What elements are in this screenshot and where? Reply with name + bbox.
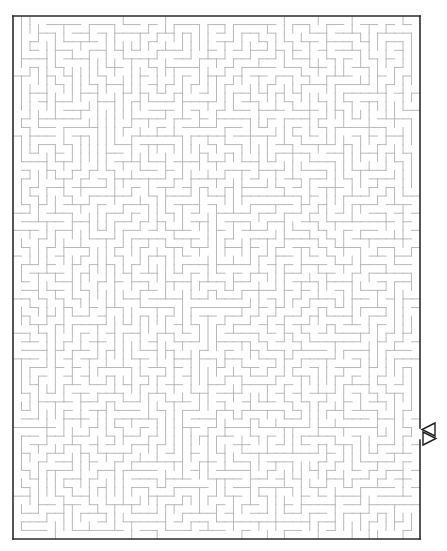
exit-arrows (422, 423, 436, 445)
maze-board (0, 0, 447, 551)
maze-walls (13, 16, 420, 539)
